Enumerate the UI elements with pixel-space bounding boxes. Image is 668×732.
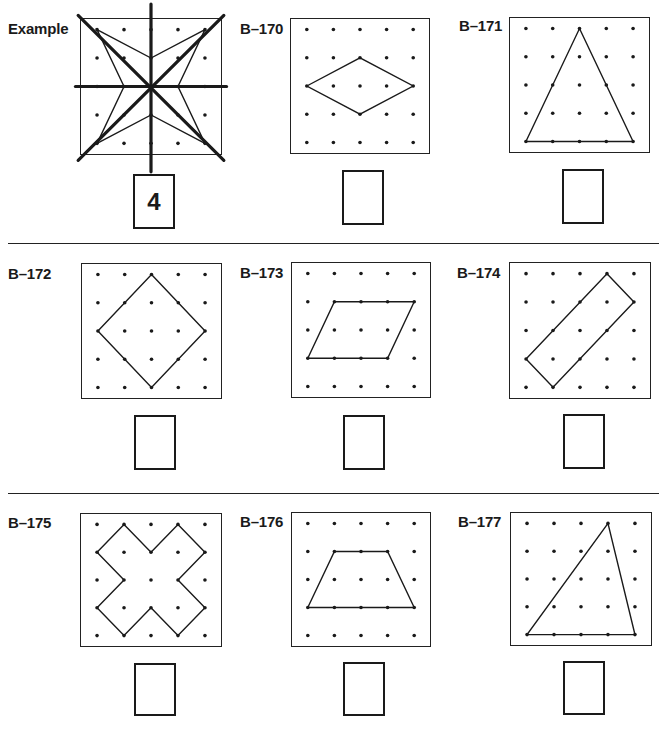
problem-label: B–174 [457, 264, 500, 281]
geoboard [291, 262, 431, 398]
section-divider [8, 243, 659, 244]
problem-label: B–176 [240, 513, 283, 530]
section-divider [8, 493, 659, 494]
problem-label: Example [8, 20, 68, 37]
geoboard [510, 512, 652, 646]
geoboard [80, 513, 222, 647]
answer-box[interactable] [343, 662, 385, 716]
problem-label: B–170 [240, 20, 283, 37]
problem-label: B–172 [8, 265, 51, 282]
answer-box[interactable] [134, 415, 176, 470]
geoboard [509, 17, 650, 153]
geoboard [291, 512, 431, 647]
problem-label: B–171 [459, 17, 502, 34]
problem-label: B–173 [240, 264, 283, 281]
answer-box[interactable] [562, 169, 604, 224]
answer-box[interactable]: 4 [133, 174, 175, 229]
answer-box[interactable] [563, 661, 605, 715]
geoboard [509, 262, 651, 399]
geoboard [81, 263, 222, 399]
problem-label: B–175 [8, 514, 51, 531]
answer-box[interactable] [342, 170, 384, 225]
answer-box[interactable] [343, 415, 385, 470]
answer-box[interactable] [563, 414, 605, 469]
geoboard [290, 18, 430, 154]
answer-box[interactable] [134, 663, 176, 716]
problem-label: B–177 [458, 513, 501, 530]
geoboard [80, 18, 222, 155]
